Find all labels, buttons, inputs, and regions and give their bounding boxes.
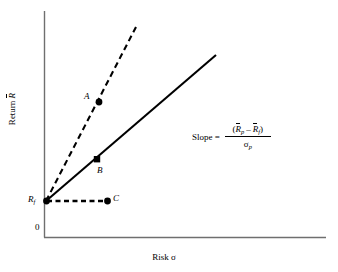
- rf-subscript: f: [34, 198, 36, 205]
- steep-dashed-line: [46, 27, 136, 201]
- slope-formula: Slope = (Rp–Rf) σp: [192, 124, 271, 150]
- slope-label: Slope =: [192, 132, 220, 142]
- origin-label: 0: [35, 223, 40, 232]
- close-paren: ): [260, 124, 263, 134]
- rf-label: Rf: [28, 195, 35, 205]
- sigma-subscript: p: [249, 143, 252, 150]
- rf-symbol-formula: R: [253, 124, 259, 134]
- slope-fraction: (Rp–Rf) σp: [225, 124, 271, 150]
- point-b-label: B: [97, 166, 103, 175]
- point-a-marker: [96, 99, 103, 106]
- point-b-marker: [94, 156, 100, 162]
- y-axis-symbol-text: R: [7, 93, 17, 99]
- x-axis-title: Risk σ: [44, 252, 284, 262]
- rf-term: R: [253, 124, 259, 134]
- point-c-marker: [104, 198, 111, 205]
- y-axis-title: Return R: [7, 79, 17, 139]
- y-axis-title-symbol: R: [7, 93, 17, 99]
- point-a-label: A: [84, 92, 90, 101]
- overbar: [236, 123, 240, 124]
- overbar: [6, 94, 7, 98]
- slope-numerator: (Rp–Rf): [230, 124, 267, 136]
- slope-denominator: σp: [241, 137, 255, 150]
- rp-symbol: R: [236, 124, 242, 134]
- risk-return-chart: Return R Risk σ 0 Rf A B C Slope = (Rp–R…: [0, 0, 338, 272]
- rp-term: R: [236, 124, 242, 134]
- rp-subscript: p: [241, 128, 244, 135]
- point-rf-marker: [43, 198, 50, 205]
- plot-canvas: [0, 0, 338, 272]
- shallow-solid-line: [46, 55, 216, 201]
- point-c-label: C: [113, 194, 119, 203]
- minus-operator: –: [246, 124, 251, 134]
- overbar: [253, 123, 257, 124]
- y-axis-title-text: Return: [7, 98, 17, 125]
